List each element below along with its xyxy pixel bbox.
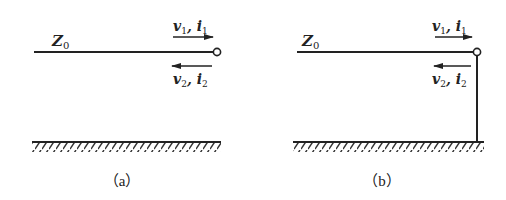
ground-plane	[32, 142, 221, 152]
impedance-label: Z0	[301, 32, 319, 51]
ground-plane	[293, 142, 484, 152]
incident-wave-label: v1, i1	[173, 18, 208, 36]
panel-a: Z0 v1, i1 v2, i2 （a）	[32, 18, 221, 189]
caption-a: （a）	[104, 173, 141, 189]
impedance-label: Z0	[51, 32, 69, 51]
caption-b: （b）	[363, 173, 401, 189]
transmission-line-diagram: Z0 v1, i1 v2, i2 （a） Z0 v1, i1 v2, i2	[0, 0, 506, 200]
terminal-node	[473, 48, 480, 55]
incident-wave-label: v1, i1	[432, 18, 467, 36]
panel-b: Z0 v1, i1 v2, i2 （b）	[293, 18, 484, 189]
open-end-terminal	[213, 48, 220, 55]
reflected-wave-label: v2, i2	[432, 71, 467, 89]
reflected-wave-label: v2, i2	[173, 71, 208, 89]
